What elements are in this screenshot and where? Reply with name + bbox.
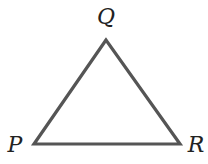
triangle-diagram: Q P R <box>0 0 208 164</box>
triangle-pqr <box>34 40 180 144</box>
vertex-label-p: P <box>7 132 24 157</box>
vertex-label-r: R <box>187 132 205 157</box>
vertex-label-q: Q <box>97 4 115 29</box>
